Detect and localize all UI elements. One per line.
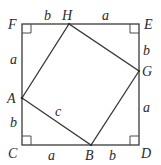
vertex-dot-H <box>68 23 70 25</box>
segment-label-HE: a <box>102 8 109 23</box>
vertex-label-F: F <box>7 17 17 32</box>
segment-label-DB: b <box>109 148 116 163</box>
segment-label-AB: c <box>55 104 62 119</box>
vertex-label-D: D <box>140 146 151 161</box>
right-angle-marker-C <box>22 136 31 145</box>
vertex-label-A: A <box>6 91 16 106</box>
vertex-dot-G <box>138 70 140 72</box>
segment-label-AF: a <box>10 52 17 67</box>
right-angle-marker-D <box>130 136 139 145</box>
segment-label-BC: a <box>48 148 55 163</box>
vertex-dot-A <box>21 97 24 100</box>
right-angle-marker-F <box>22 24 31 33</box>
vertex-dot-B <box>90 144 92 146</box>
segment-label-GD: a <box>143 100 150 115</box>
vertex-label-H: H <box>61 8 73 23</box>
pythagorean-diagram: F H E G A C B D b a b a b a b a c <box>0 0 161 165</box>
outer-square <box>22 24 139 145</box>
segment-label-EG: b <box>143 43 150 58</box>
vertex-label-E: E <box>143 17 153 32</box>
vertex-label-C: C <box>8 146 18 161</box>
segment-label-CA: b <box>10 115 17 130</box>
vertex-label-G: G <box>142 64 152 79</box>
vertex-label-B: B <box>85 148 94 163</box>
segment-label-FH: b <box>44 8 51 23</box>
right-angle-marker-E <box>130 24 139 33</box>
inner-square <box>22 24 139 145</box>
